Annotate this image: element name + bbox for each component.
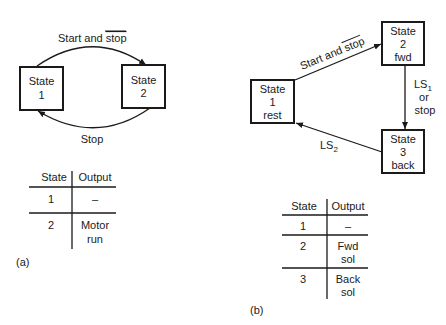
state-b-2-label: State — [390, 25, 416, 37]
state-b-3: State 3 back — [382, 130, 424, 173]
caption-b: (b) — [250, 304, 263, 316]
state-a-1-label: State — [29, 75, 55, 87]
state-b-3-number: 3 — [400, 146, 406, 158]
table-a-header-state: State — [41, 171, 67, 183]
table-b-row-2-output-line2: sol — [341, 253, 355, 265]
transition-a-2-to-1-label: Stop — [81, 133, 104, 145]
table-a-row-2-output-line2: run — [87, 233, 103, 245]
table-a-row-2-state: 2 — [48, 219, 54, 231]
transition-b-3-to-1-arrow — [296, 123, 382, 152]
output-table-b: State Output 1 – 2 Fwd sol 3 Back sol — [282, 199, 368, 299]
state-a-1-number: 1 — [38, 89, 44, 101]
state-a-2-number: 2 — [140, 87, 146, 99]
table-a-row-2-output-line1: Motor — [81, 219, 109, 231]
table-b-row-1-state: 1 — [300, 220, 306, 232]
state-a-2: State 2 — [122, 65, 165, 108]
state-b-2-number: 2 — [400, 38, 406, 50]
transition-a-1-to-2-arrow — [37, 47, 146, 66]
state-b-3-name: back — [391, 159, 415, 171]
table-a-row-1-state: 1 — [48, 193, 54, 205]
state-b-3-label: State — [390, 133, 416, 145]
state-b-1-number: 1 — [269, 96, 275, 108]
transition-a-1-to-2-label: Start and stop — [58, 32, 127, 44]
state-b-2-name: fwd — [394, 51, 411, 63]
table-b-row-3-output-line1: Back — [336, 273, 361, 285]
table-a-row-1-output: – — [92, 193, 99, 205]
svg-text:Start and stop: Start and stop — [298, 35, 366, 72]
state-b-2: State 2 fwd — [382, 22, 424, 65]
state-b-1: State 1 rest — [251, 80, 294, 123]
output-table-a: State Output 1 – 2 Motor run — [29, 171, 116, 249]
table-b-row-2-output-line1: Fwd — [338, 240, 359, 252]
state-a-1: State 1 — [20, 67, 63, 110]
state-b-1-name: rest — [263, 109, 281, 121]
table-b-header-output: Output — [331, 200, 364, 212]
table-b-row-1-output: – — [345, 220, 352, 232]
table-b-header-state: State — [291, 200, 317, 212]
transition-b-3-to-1-label: LS2 — [320, 139, 338, 154]
diagram-a: State 1 State 2 Start and stop Stop Stat… — [16, 31, 165, 268]
diagram-b: State 1 rest State 2 fwd State 3 back St… — [250, 22, 435, 316]
state-a-2-label: State — [131, 74, 157, 86]
svg-text:or: or — [419, 91, 429, 103]
table-b-row-3-state: 3 — [300, 273, 306, 285]
transition-b-1-to-2-label: Start and stop — [298, 35, 366, 72]
table-a-header-output: Output — [78, 171, 111, 183]
state-diagram-figure: State 1 State 2 Start and stop Stop Stat… — [0, 0, 446, 325]
transition-b-2-to-3-label: LS1 or stop — [414, 78, 435, 116]
svg-text:stop: stop — [415, 104, 436, 116]
state-b-1-label: State — [260, 83, 286, 95]
table-b-row-2-state: 2 — [300, 240, 306, 252]
table-b-row-3-output-line2: sol — [341, 286, 355, 298]
caption-a: (a) — [16, 256, 29, 268]
